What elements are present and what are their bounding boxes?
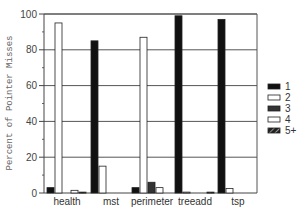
legend-swatch [268, 128, 280, 133]
bar-perimeter-3 [148, 182, 155, 193]
y-axis-label: Percent of Pointer Misses [5, 35, 15, 170]
bar-treeadd-1 [175, 16, 182, 193]
x-category-label: perimeter [131, 196, 174, 207]
bars [47, 16, 233, 193]
bar-mst-1 [91, 41, 98, 193]
bar-tsp-1 [218, 19, 225, 193]
bar-health-5+ [79, 192, 86, 193]
bar-health-4 [71, 190, 78, 193]
bar-health-2 [55, 23, 62, 193]
y-tick-label: 100 [20, 9, 37, 20]
bar-chart: 020406080100 Percent of Pointer Misses h… [0, 0, 307, 212]
bar-health-1 [47, 188, 54, 193]
y-tick-label: 80 [26, 44, 38, 55]
bar-perimeter-1 [132, 188, 139, 193]
bar-mst-2 [99, 166, 106, 193]
legend-label: 5+ [285, 125, 297, 136]
legend: 12345+ [268, 81, 297, 136]
legend-label: 3 [285, 103, 291, 114]
bar-treeadd-5+ [207, 192, 214, 193]
legend-swatch [268, 84, 280, 89]
y-tick-label: 20 [26, 152, 38, 163]
x-axis-categories: healthmstperimetertreeaddtsp [53, 196, 245, 207]
x-category-label: tsp [231, 196, 245, 207]
bar-perimeter-4 [156, 188, 163, 193]
bar-treeadd-2 [183, 192, 190, 193]
legend-swatch [268, 95, 280, 100]
y-tick-label: 60 [26, 80, 38, 91]
x-category-label: treeadd [178, 196, 212, 207]
bar-perimeter-2 [140, 37, 147, 193]
legend-label: 2 [285, 92, 291, 103]
legend-swatch [268, 117, 280, 122]
y-tick-label: 40 [26, 116, 38, 127]
y-axis-ticks: 020406080100 [20, 9, 37, 199]
legend-label: 1 [285, 81, 291, 92]
legend-label: 4 [285, 114, 291, 125]
x-category-label: mst [103, 196, 119, 207]
legend-swatch [268, 106, 280, 111]
bar-tsp-2 [226, 189, 233, 193]
y-tick-label: 0 [31, 188, 37, 199]
x-category-label: health [53, 196, 80, 207]
